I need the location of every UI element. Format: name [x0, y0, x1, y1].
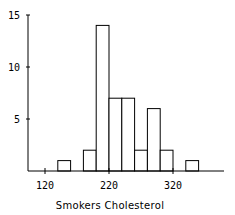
histogram-bar	[96, 25, 109, 171]
histogram-bar	[122, 98, 135, 171]
histogram-bar	[83, 150, 96, 171]
histogram-bar	[109, 98, 122, 171]
y-tick-label-5: 5	[14, 114, 20, 125]
x-axis-title: Smokers Cholesterol	[56, 200, 164, 211]
histogram-bar	[160, 150, 173, 171]
bars	[58, 25, 199, 171]
x-tick-label-120: 120	[36, 180, 54, 191]
y-tick-label-10: 10	[8, 62, 20, 73]
histogram-chart: 15 10 5 120 220 320 Smokers Cholesterol	[0, 0, 235, 215]
x-tick-label-320: 320	[164, 180, 182, 191]
x-tick-label-220: 220	[100, 180, 118, 191]
histogram-bar	[186, 161, 199, 171]
histogram-bar	[135, 150, 148, 171]
y-tick-label-15: 15	[8, 10, 20, 21]
histogram-bar	[147, 109, 160, 171]
histogram-bar	[58, 161, 71, 171]
